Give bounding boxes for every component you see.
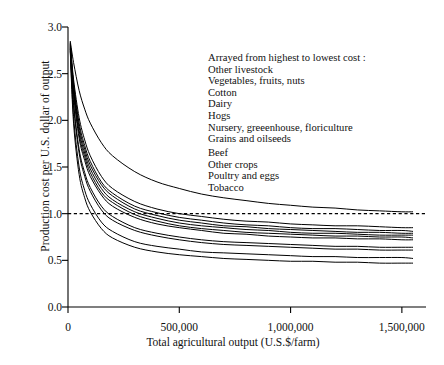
x-tick-label: 500,000	[161, 321, 198, 333]
legend-item: Other crops	[208, 159, 366, 171]
legend-item: Dairy	[208, 98, 366, 110]
y-axis-title: Production cost per U.S. dollar of outpu…	[39, 31, 51, 281]
x-axis-title: Total agricultural output (U.S.$/farm)	[68, 336, 398, 348]
legend-item: Nursery, greeenhouse, floriculture	[208, 122, 366, 134]
y-tick-label: 0.0	[28, 301, 62, 313]
legend-item-list: Other livestockVegetables, fruits, nutsC…	[208, 64, 366, 194]
y-axis-ticks	[62, 27, 68, 307]
legend-item: Cotton	[208, 87, 366, 99]
chart-figure: 0.00.51.01.52.02.53.0 0500,0001,000,0001…	[0, 0, 444, 365]
x-tick-label: 0	[65, 321, 71, 333]
legend-heading: Arrayed from highest to lowest cost :	[208, 52, 366, 64]
x-tick-label: 1,000,000	[268, 321, 314, 333]
legend: Arrayed from highest to lowest cost : Ot…	[208, 52, 366, 194]
legend-item: Other livestock	[208, 64, 366, 76]
legend-item: Vegetables, fruits, nuts	[208, 75, 366, 87]
x-tick-label-group: 0500,0001,000,0001,500,000	[0, 313, 444, 333]
legend-item: Tobacco	[208, 182, 366, 194]
legend-item: Hogs	[208, 110, 366, 122]
legend-item: Beef	[208, 147, 366, 159]
legend-item: Poultry and eggs	[208, 170, 366, 182]
legend-item: Grains and oilseeds	[208, 133, 366, 145]
x-tick-label: 1,500,000	[379, 321, 425, 333]
